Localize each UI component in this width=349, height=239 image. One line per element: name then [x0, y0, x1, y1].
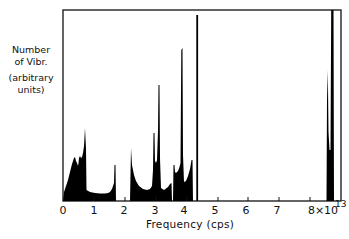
x-tick-label: 7	[274, 204, 281, 217]
frequency-spectrum-chart: 0 1 2 3 4 5 6 7 8×10 13	[0, 0, 349, 239]
x-tick-exponent: 13	[335, 199, 346, 209]
x-tick-label: 0	[60, 204, 67, 217]
x-tick-label: 5	[212, 204, 219, 217]
x-axis-title: Frequency (cps)	[120, 218, 260, 230]
x-tick-label: 1	[91, 204, 98, 217]
x-tick-label: 6	[243, 204, 250, 217]
x-axis-tick-labels: 0 1 2 3 4 5 6 7 8×10 13	[60, 199, 347, 217]
spectrum-fill	[63, 10, 334, 201]
x-tick-label: 4	[181, 204, 188, 217]
x-tick-label: 2	[121, 204, 128, 217]
plot-frame	[63, 10, 341, 201]
x-tick-label: 3	[152, 204, 159, 217]
x-tick-label: 8×10	[308, 204, 338, 217]
